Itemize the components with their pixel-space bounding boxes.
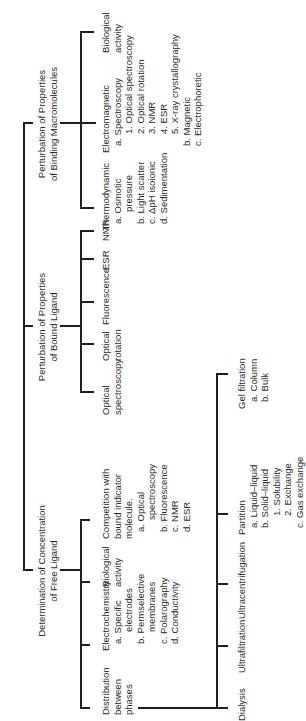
- free-ligand-tick-2: [80, 644, 90, 646]
- macromolecules-tick-2: [80, 122, 94, 124]
- node-biological-activity-macro: Biological activity: [100, 12, 123, 53]
- bound-ligand-tick-1: [80, 391, 94, 393]
- node-ultracentrifugation: Ultracentrifugation: [236, 542, 248, 619]
- bound-ligand-tick-3: [80, 301, 94, 303]
- bound-ligand-tick-2: [80, 343, 94, 345]
- distribution-tick-gel-filtration: [216, 373, 228, 375]
- node-optical-rotation: Optical rotation: [100, 329, 123, 361]
- root-tick-macromolecules: [23, 122, 33, 124]
- node-fluorescence: Fluorescence: [100, 268, 112, 325]
- node-dialysis: Dialysis: [236, 688, 248, 721]
- free-ligand-stub: [60, 569, 80, 571]
- bound-ligand-tick-5: [80, 230, 94, 232]
- free-ligand-tick-4: [80, 519, 90, 521]
- free-ligand-tick-1: [80, 707, 90, 709]
- macromolecules-tick-3: [80, 31, 94, 33]
- node-free-ligand: Determination of Concentration of Free L…: [36, 501, 59, 641]
- root-connector: [23, 122, 25, 571]
- bound-ligand-bracket: [80, 230, 82, 393]
- bound-ligand-tick-4: [80, 258, 94, 260]
- node-competition-indicator: Competition with bound indicator molecul…: [100, 464, 192, 539]
- node-bound-ligand: Perturbation of Properties of Bound Liga…: [36, 257, 59, 397]
- root-tick-free-ligand: [23, 569, 33, 571]
- macromolecules-tick-1: [80, 207, 94, 209]
- distribution-tick-ultracentrifugation: [216, 583, 228, 585]
- node-biological-activity-free: Biological activity: [100, 546, 123, 587]
- node-distribution-between-phases: Distribution between phases: [100, 667, 135, 715]
- root-tick-bound-ligand: [23, 325, 33, 327]
- distribution-stub: [138, 707, 218, 709]
- node-ultrafiltration: Ultrafiltration: [236, 620, 248, 673]
- distribution-bracket: [216, 373, 218, 709]
- node-partition: Partition a. Liquid–liquid b. Solid–liqu…: [236, 457, 305, 535]
- node-gel-filtration: Gel filtration a. Column b. Bulk: [236, 358, 271, 409]
- distribution-tick-ultrafiltration: [216, 645, 228, 647]
- macromolecules-bracket: [80, 31, 82, 209]
- distribution-tick-partition: [216, 513, 228, 515]
- node-esr: ESR: [100, 250, 112, 270]
- free-ligand-tick-3: [80, 581, 90, 583]
- node-binding-macromolecules: Perturbation of Properties of Binding Ma…: [36, 54, 59, 194]
- node-optical-spectroscopy: Optical spectroscopy: [100, 359, 123, 415]
- free-ligand-bracket: [80, 519, 82, 709]
- node-thermodynamic: Thermodynamic a. Osmotic pressure b. Lig…: [100, 153, 169, 231]
- bound-ligand-stub: [60, 325, 82, 327]
- distribution-tick-dialysis: [216, 707, 228, 709]
